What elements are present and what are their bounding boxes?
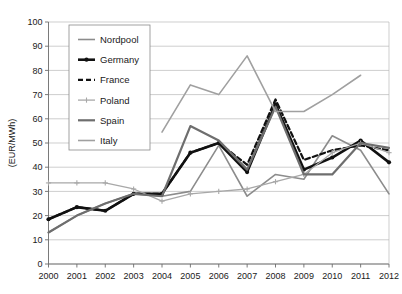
x-axis-tick-label: 2006	[209, 271, 229, 281]
y-axis-tick-label: 100	[27, 17, 42, 27]
legend-label-italy: Italy	[100, 135, 118, 146]
line-chart: 0102030405060708090100200020012002200320…	[0, 0, 402, 294]
legend-label-germany: Germany	[100, 54, 139, 65]
y-axis-tick-label: 60	[32, 114, 42, 124]
y-axis-tick-label: 30	[32, 187, 42, 197]
y-axis-tick-label: 80	[32, 66, 42, 76]
legend: NordpoolGermanyFrancePolandSpainItaly	[69, 25, 150, 150]
x-axis-group: 2000200120022003200420052006200720082009…	[38, 264, 399, 281]
x-axis-tick-label: 2003	[124, 271, 144, 281]
y-axis-tick-label: 40	[32, 162, 42, 172]
y-axis-tick-label: 20	[32, 211, 42, 221]
x-axis-tick-label: 2008	[265, 271, 285, 281]
legend-marker	[84, 58, 88, 62]
chart-container: 0102030405060708090100200020012002200320…	[0, 0, 402, 294]
x-axis-tick-label: 2005	[180, 271, 200, 281]
x-axis-tick-label: 2004	[152, 271, 172, 281]
x-axis-tick-label: 2000	[38, 271, 58, 281]
legend-label-nordpool: Nordpool	[100, 34, 139, 45]
y-axis-tick-label: 0	[37, 259, 42, 269]
series-italy	[162, 56, 361, 132]
y-axis-tick-label: 90	[32, 41, 42, 51]
legend-label-poland: Poland	[100, 95, 130, 106]
x-axis-tick-label: 2010	[322, 271, 342, 281]
data-point-marker	[330, 155, 334, 159]
x-axis-tick-label: 2001	[67, 271, 87, 281]
x-axis-tick-label: 2011	[351, 271, 370, 281]
x-axis-tick-label: 2012	[379, 271, 399, 281]
y-axis-tick-label: 70	[32, 90, 42, 100]
data-point-marker	[387, 160, 391, 164]
y-axis-tick-label: 10	[32, 235, 42, 245]
legend-label-spain: Spain	[100, 115, 124, 126]
x-axis-tick-label: 2009	[294, 271, 314, 281]
y-axis-tick-label: 50	[32, 138, 42, 148]
series-line-italy	[162, 56, 361, 132]
x-axis-tick-label: 2007	[237, 271, 257, 281]
x-axis-tick-label: 2002	[95, 271, 115, 281]
legend-label-france: France	[100, 74, 130, 85]
y-axis-title: (EUR/MWh)	[7, 119, 17, 168]
